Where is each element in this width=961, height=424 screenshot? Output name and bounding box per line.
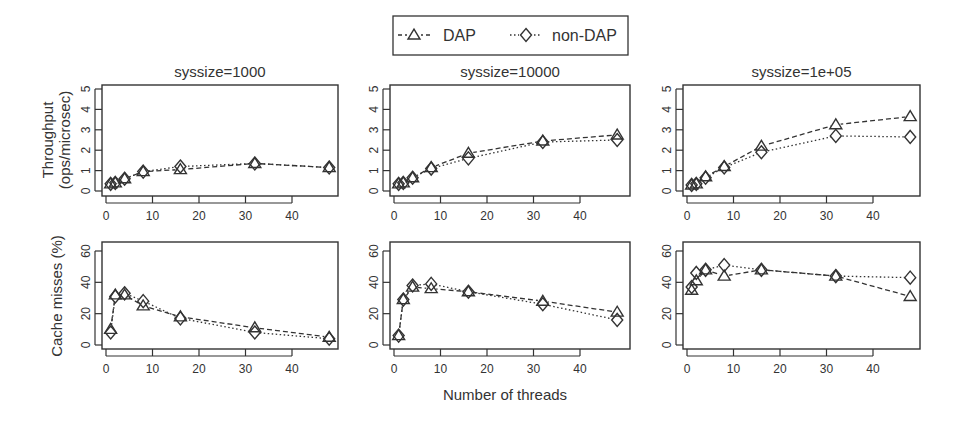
y-tick-label: 4 [79, 106, 93, 113]
y-tick-label: 0 [660, 341, 674, 348]
x-tick-label: 10 [434, 362, 448, 376]
x-tick-label: 10 [146, 362, 160, 376]
x-tick-label: 0 [103, 209, 110, 223]
plot-frame [390, 85, 630, 196]
y-tick-label: 1 [79, 167, 93, 174]
panel-1: syssize=1000012345010203040 [79, 63, 338, 223]
x-tick-label: 0 [684, 362, 691, 376]
x-tick-label: 20 [773, 362, 787, 376]
plot-frame [683, 85, 920, 196]
x-tick-label: 30 [527, 362, 541, 376]
y-axis-label-throughput-units: (ops/microsec) [56, 91, 73, 189]
panel-title: syssize=1e+05 [751, 63, 851, 80]
plot-frame [102, 85, 338, 196]
legend: DAPnon-DAP [393, 16, 628, 55]
plot-frame [683, 242, 920, 349]
x-tick-label: 0 [391, 362, 398, 376]
panel-2: syssize=10000012345010203040 [367, 63, 630, 223]
x-tick-label: 30 [820, 362, 834, 376]
y-tick-label: 1 [367, 167, 381, 174]
panel-title: syssize=10000 [460, 63, 560, 80]
legend-label-dap: DAP [443, 27, 476, 44]
y-tick-label: 60 [660, 244, 674, 258]
chart-figure: DAPnon-DAP syssize=1000012345010203040sy… [0, 0, 961, 424]
x-tick-label: 10 [727, 209, 741, 223]
panel-3: syssize=1e+05012345010203040 [660, 63, 920, 223]
x-tick-label: 0 [684, 209, 691, 223]
y-tick-label: 0 [367, 341, 381, 348]
x-axis-label: Number of threads [443, 386, 567, 403]
y-tick-label: 0 [79, 187, 93, 194]
x-tick-label: 30 [239, 362, 253, 376]
x-tick-label: 0 [391, 209, 398, 223]
x-tick-label: 0 [103, 362, 110, 376]
plot-frame [102, 242, 338, 349]
y-tick-label: 40 [660, 275, 674, 289]
panel-5: 0204060010203040 [367, 242, 630, 376]
y-tick-label: 20 [79, 307, 93, 321]
x-tick-label: 40 [573, 362, 587, 376]
x-tick-label: 40 [285, 362, 299, 376]
x-tick-label: 40 [573, 209, 587, 223]
panel-4: 0204060010203040 [79, 242, 338, 376]
y-tick-label: 40 [367, 275, 381, 289]
x-tick-label: 30 [239, 209, 253, 223]
y-tick-label: 0 [367, 187, 381, 194]
y-tick-label: 4 [367, 106, 381, 113]
x-tick-label: 10 [146, 209, 160, 223]
y-axis-label-cache-misses: Cache misses (%) [48, 235, 65, 357]
panels: syssize=1000012345010203040syssize=10000… [79, 63, 920, 376]
y-tick-label: 40 [79, 275, 93, 289]
x-tick-label: 10 [434, 209, 448, 223]
x-tick-label: 30 [527, 209, 541, 223]
y-axis-label-throughput: Throughput [39, 101, 56, 179]
y-tick-label: 60 [367, 244, 381, 258]
y-tick-label: 0 [79, 341, 93, 348]
x-tick-label: 10 [727, 362, 741, 376]
y-tick-label: 0 [660, 187, 674, 194]
y-tick-label: 2 [79, 147, 93, 154]
y-tick-label: 60 [79, 244, 93, 258]
x-tick-label: 40 [866, 362, 880, 376]
x-tick-label: 20 [192, 362, 206, 376]
y-tick-label: 1 [660, 167, 674, 174]
x-tick-label: 20 [192, 209, 206, 223]
x-tick-label: 20 [480, 362, 494, 376]
y-tick-label: 20 [367, 307, 381, 321]
y-tick-label: 3 [79, 126, 93, 133]
y-tick-label: 3 [660, 126, 674, 133]
y-tick-label: 20 [660, 307, 674, 321]
x-tick-label: 40 [285, 209, 299, 223]
x-tick-label: 20 [480, 209, 494, 223]
x-tick-label: 30 [820, 209, 834, 223]
panel-title: syssize=1000 [174, 63, 265, 80]
panel-6: 0204060010203040 [660, 242, 920, 376]
y-tick-label: 5 [660, 85, 674, 92]
y-tick-label: 2 [367, 147, 381, 154]
y-tick-label: 3 [367, 126, 381, 133]
y-tick-label: 5 [367, 85, 381, 92]
y-tick-label: 5 [79, 85, 93, 92]
plot-frame [390, 242, 630, 349]
x-tick-label: 20 [773, 209, 787, 223]
y-tick-label: 4 [660, 106, 674, 113]
y-tick-label: 2 [660, 147, 674, 154]
x-tick-label: 40 [866, 209, 880, 223]
series-line-dap [399, 135, 618, 184]
legend-label-non-dap: non-DAP [552, 27, 617, 44]
series-line-dap [399, 287, 618, 336]
